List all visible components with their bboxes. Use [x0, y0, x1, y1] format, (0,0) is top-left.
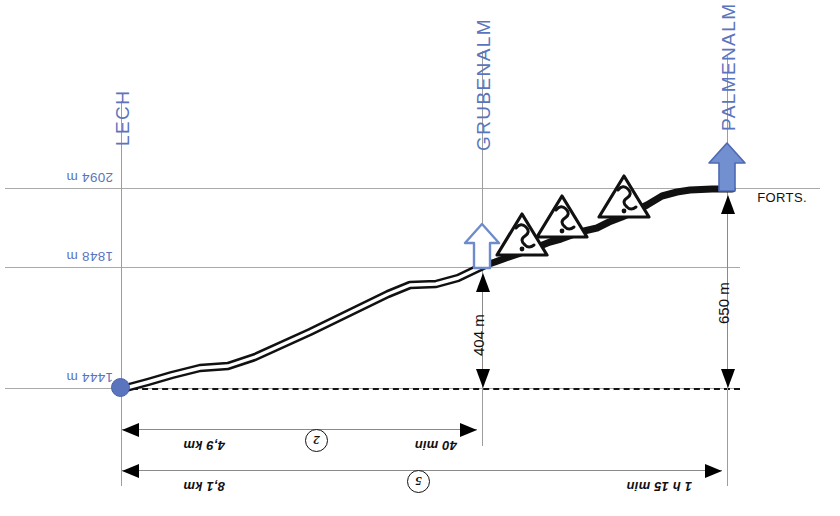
station-label-grubenalm: GRUBENALM — [473, 18, 495, 151]
dim-arrowhead-left-stage5 — [705, 464, 722, 478]
station-marker-lech[interactable] — [111, 378, 130, 397]
elevation-label-1444: 1444 m — [66, 370, 113, 385]
continuation-label: FORTS. — [757, 190, 807, 205]
stage-number-2: 2 — [305, 429, 328, 452]
dim-arrowhead-up-650 — [721, 369, 735, 388]
reference-dashed-line — [112, 388, 740, 390]
warning-triangle-icon — [494, 210, 550, 258]
dim-time-stage2: 40 min — [415, 438, 457, 453]
station-marker-grubenalm[interactable] — [462, 222, 502, 270]
dim-distance-stage2: 4,9 km — [183, 438, 225, 453]
station-marker-palmenalm[interactable] — [706, 141, 748, 193]
station-label-palmenalm: PALMENALM — [718, 3, 740, 131]
dim-line-stage2 — [122, 429, 477, 430]
dim-arrowhead-right-stage5 — [122, 464, 139, 478]
dim-label-650: 650 m — [715, 282, 732, 324]
dim-arrowhead-right-stage2 — [122, 423, 139, 437]
dim-arrowhead-left-stage2 — [460, 423, 477, 437]
dim-distance-stage5: 8,1 km — [183, 479, 225, 494]
dim-arrowhead-down-650 — [721, 195, 735, 214]
stage-number-5: 5 — [407, 470, 430, 493]
dim-arrowhead-up-404 — [476, 369, 490, 388]
gridline-1848 — [5, 267, 740, 268]
elevation-label-1848: 1848 m — [66, 249, 113, 264]
dim-time-stage5: 1 h 15 min — [626, 479, 692, 494]
elevation-profile-sheet: 1 h 15 min 5 8,1 km 40 min 2 4,9 km 650 … — [0, 0, 840, 516]
gridline-2094 — [5, 188, 820, 189]
dim-arrowhead-down-404 — [476, 273, 490, 292]
dim-label-404: 404 m — [470, 314, 487, 356]
station-label-lech: LECH — [112, 90, 134, 146]
warning-triangle-icon — [596, 172, 652, 220]
elevation-label-2094: 2094 m — [66, 170, 113, 185]
